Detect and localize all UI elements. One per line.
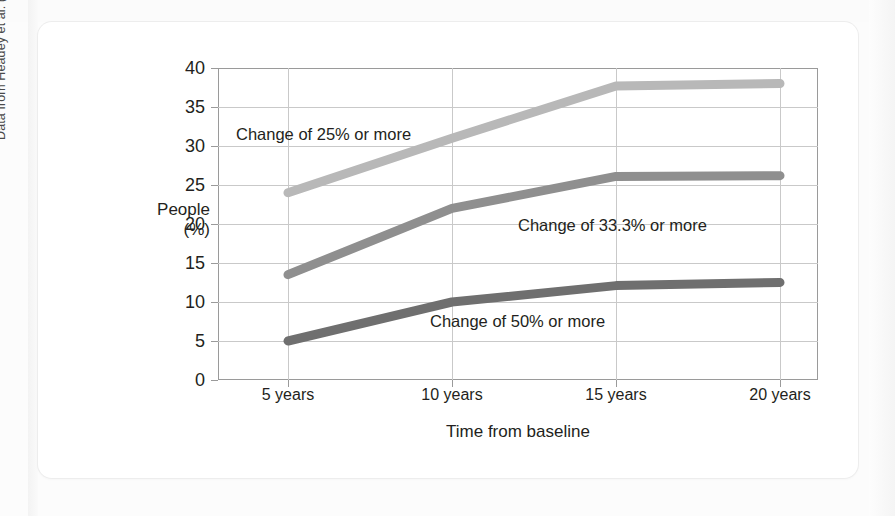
y-axis-tick-label: 0 — [159, 370, 214, 391]
y-axis-tick-label: 35 — [159, 97, 214, 118]
y-axis-tick-label: 5 — [159, 331, 214, 352]
series-label-change-333: Change of 33.3% or more — [518, 216, 707, 235]
plot-wrapper: 0510152025303540 5 years10 years15 years… — [218, 68, 818, 380]
source-credit: Data from Headey et al. (2010) — [0, 0, 8, 140]
y-axis-tick-label: 40 — [159, 58, 214, 79]
x-axis-tick-label: 20 years — [715, 386, 845, 404]
y-axis-tick-label: 20 — [159, 214, 214, 235]
y-axis-tick-label: 15 — [159, 253, 214, 274]
figure-card: People (%) 0510152025303540 5 years10 ye… — [38, 22, 858, 478]
y-axis-tick-label: 25 — [159, 175, 214, 196]
x-axis-tick-label: 5 years — [223, 386, 353, 404]
scan-artifact-left-edge — [28, 0, 38, 516]
y-axis-tick-label: 10 — [159, 292, 214, 313]
series-label-change-50: Change of 50% or more — [430, 312, 605, 331]
x-axis-tick-label: 15 years — [551, 386, 681, 404]
series-label-change-25: Change of 25% or more — [236, 125, 411, 144]
scan-artifact-top — [0, 0, 895, 22]
y-axis-tick-label: 30 — [159, 136, 214, 157]
scan-artifact-right-edge — [869, 0, 895, 516]
x-axis-tick-label: 10 years — [387, 386, 517, 404]
x-axis-title: Time from baseline — [218, 422, 818, 442]
